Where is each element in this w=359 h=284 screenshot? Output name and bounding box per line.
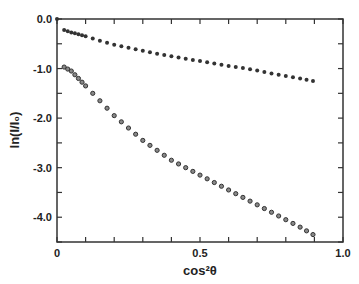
lower-series-point [105,106,109,110]
upper-series-point [262,70,266,74]
upper-series-point [80,33,84,37]
lower-series-point [219,184,223,188]
lower-series-point [98,99,102,103]
upper-series-point [219,63,223,67]
y-tick-label-3: -3.0 [33,162,52,174]
lower-series-point [191,169,195,173]
lower-series-point [291,221,295,225]
upper-series-point [305,78,309,82]
lower-series-point [148,143,152,147]
upper-series-point [148,50,152,54]
upper-series-point [73,31,77,35]
upper-series-point [227,64,231,68]
y-tick-label-2: -2.0 [33,112,52,124]
upper-series-point [66,29,70,33]
data-points [62,28,315,237]
lower-series-point [73,73,77,77]
lower-series-point [134,132,138,136]
upper-series-point [62,28,66,32]
lower-series-point [311,232,315,236]
lower-series-point [76,76,80,80]
lower-series-point [284,218,288,222]
lower-series-point [227,188,231,192]
upper-series-point [270,72,274,76]
lower-series-point [69,69,73,73]
upper-series-point [69,30,73,34]
lower-series-point [141,138,145,142]
lower-series-point [269,210,273,214]
lower-series-point [255,203,259,207]
lower-series-point [112,114,116,118]
lower-series-point [91,91,95,95]
lower-series-point [184,166,188,170]
lower-series-point [126,126,130,130]
upper-series-point [248,67,252,71]
lower-series-point [277,214,281,218]
lower-series-point [205,177,209,181]
upper-series-point [191,58,195,62]
upper-series-point [212,62,216,66]
lower-series-point [80,80,84,84]
upper-series-point [298,76,302,80]
y-tick-label-4: -4.0 [33,211,52,223]
y-axis-label: ln(I/I₀) [7,112,22,149]
lower-series-point [176,162,180,166]
upper-series-point [241,66,245,70]
upper-series-point [284,74,288,78]
lower-series-point [262,206,266,210]
upper-series-point [98,39,102,43]
lower-series-point [298,225,302,229]
x-tick-label-0: 0 [54,247,60,259]
y-tick-label-1: -1.0 [33,63,52,75]
lower-series-point [119,120,123,124]
upper-series-point [169,54,173,58]
lower-series-point [84,84,88,88]
lower-series-point [234,192,238,196]
upper-series-point [255,69,259,73]
upper-series-point [291,75,295,79]
upper-series-point [84,34,88,38]
x-tick-label-2: 1.0 [335,247,350,259]
upper-series-point [105,41,109,45]
upper-series-point [91,37,95,41]
plot-frame [57,19,343,242]
upper-series-point [76,32,80,36]
lower-series-point [155,148,159,152]
lower-series-point [212,180,216,184]
upper-series-point [112,43,116,47]
upper-series-point [198,59,202,63]
upper-series-point [134,47,138,51]
lower-series-point [241,195,245,199]
upper-series-point [184,57,188,61]
upper-series-point [155,52,159,56]
lower-series-point [304,229,308,233]
scatter-plot: 0 0.5 1.0 0.0 -1.0 -2.0 -3.0 -4.0 cos²θ … [0,0,359,284]
upper-series-point [234,65,238,69]
lower-series-point [169,158,173,162]
upper-series-point [127,46,131,50]
axes-frame [55,17,343,242]
lower-series-point [248,199,252,203]
upper-series-point [277,73,281,77]
lower-series-point [198,173,202,177]
upper-series-point [205,60,209,64]
upper-series-point [177,55,181,59]
y-tick-label-0: 0.0 [37,13,52,25]
upper-series-point [311,79,315,83]
upper-series-point [162,53,166,57]
x-axis-label: cos²θ [183,263,217,278]
x-tick-label-1: 0.5 [192,247,207,259]
upper-series-point [141,49,145,53]
lower-series-point [162,153,166,157]
upper-series-point [119,44,123,48]
